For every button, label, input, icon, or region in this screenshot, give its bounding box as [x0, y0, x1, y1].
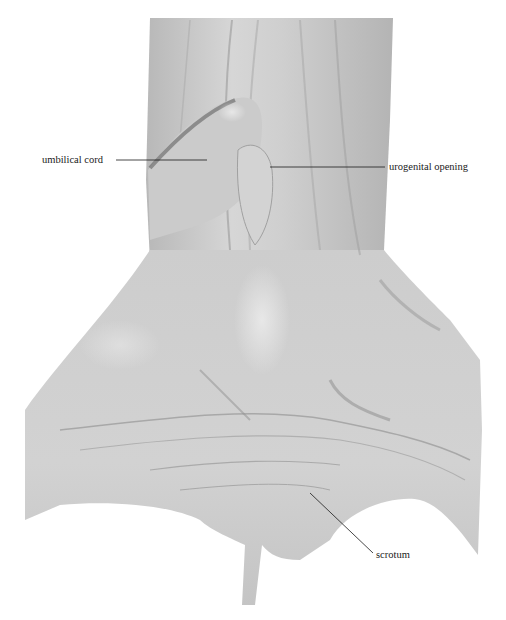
label-urogenital-opening: urogenital opening — [389, 161, 468, 173]
specimen-photo — [0, 0, 506, 620]
specimen-figure: umbilical cord urogenital opening scrotu… — [0, 0, 506, 620]
label-scrotum: scrotum — [376, 549, 410, 561]
label-umbilical-cord: umbilical cord — [42, 154, 103, 166]
